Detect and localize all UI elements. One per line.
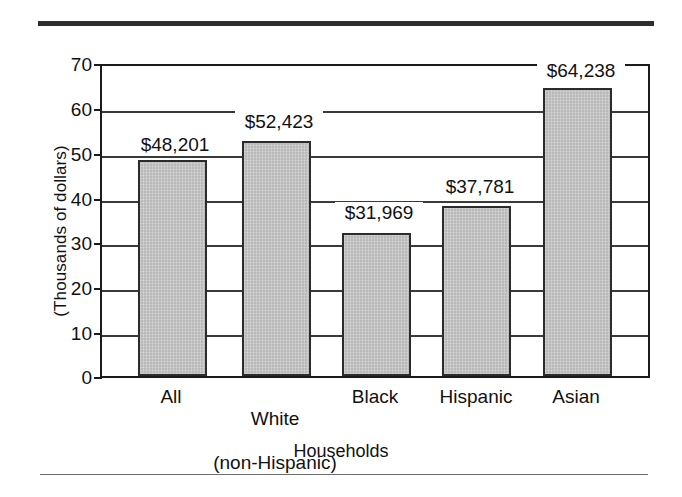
x-tick-label-white-line1: White	[251, 408, 300, 429]
y-tick-label-50: 50	[32, 145, 92, 164]
value-label-all: $48,201	[131, 134, 219, 156]
y-tick-label-30: 30	[32, 234, 92, 253]
bar-white[interactable]	[242, 141, 311, 376]
figure-container: (Thousands of dollars) 70 60 50 40 30 20…	[0, 0, 682, 497]
x-axis-title: Households	[0, 441, 682, 462]
y-tick-label-70: 70	[32, 55, 92, 74]
y-tick-label-10: 10	[32, 324, 92, 343]
bar-hispanic[interactable]	[442, 206, 511, 376]
bar-all[interactable]	[138, 160, 207, 376]
bar-asian[interactable]	[543, 88, 612, 376]
x-tick-label-asian: Asian	[511, 386, 641, 408]
bar-black[interactable]	[342, 233, 411, 376]
top-divider-rule	[38, 21, 654, 26]
value-label-hispanic: $37,781	[436, 176, 524, 198]
y-tick-label-60: 60	[32, 100, 92, 119]
y-axis-title: (Thousands of dollars)	[51, 71, 71, 391]
value-label-white: $52,423	[235, 111, 323, 133]
bottom-divider-rule	[40, 474, 648, 475]
y-tick-label-0: 0	[32, 368, 92, 387]
value-label-asian: $64,238	[537, 60, 625, 82]
value-label-black: $31,969	[335, 202, 423, 224]
y-tick-label-20: 20	[32, 279, 92, 298]
y-tick-label-40: 40	[32, 190, 92, 209]
